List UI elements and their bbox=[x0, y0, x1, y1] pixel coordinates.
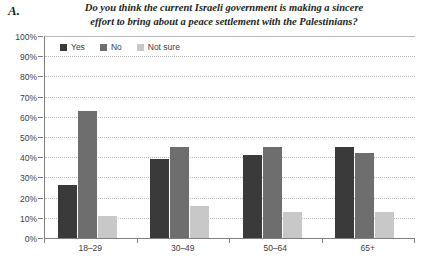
legend-label: Not sure bbox=[148, 42, 180, 52]
gridline bbox=[45, 137, 415, 138]
legend-label: Yes bbox=[71, 42, 85, 52]
y-axis-tick-label: 30% bbox=[0, 173, 37, 183]
chart-title-line-2: effort to bring about a peace settlement… bbox=[74, 15, 374, 29]
y-axis-tick-mark bbox=[38, 56, 43, 57]
x-axis-tick-label: 65+ bbox=[322, 243, 415, 253]
legend-swatch-icon bbox=[137, 44, 144, 51]
legend-swatch-icon bbox=[60, 44, 67, 51]
gridline bbox=[45, 36, 415, 37]
bar-5064-not-sure bbox=[283, 212, 302, 238]
y-axis-tick-mark bbox=[38, 177, 43, 178]
y-axis-tick-label: 20% bbox=[0, 193, 37, 203]
y-axis-tick-mark bbox=[38, 117, 43, 118]
y-axis-tick-label: 0% bbox=[0, 234, 37, 244]
y-axis-tick-label: 50% bbox=[0, 133, 37, 143]
x-axis-tick-label: 18–29 bbox=[44, 243, 137, 253]
legend-item-no[interactable]: No bbox=[100, 42, 122, 52]
gridline bbox=[45, 76, 415, 77]
y-axis-tick-label: 40% bbox=[0, 153, 37, 163]
panel-label: A. bbox=[8, 3, 20, 19]
y-axis-tick-label: 10% bbox=[0, 213, 37, 223]
chart-figure: A. Do you think the current Israeli gove… bbox=[0, 0, 424, 265]
bar-3049-no bbox=[170, 147, 189, 238]
bar-5064-no bbox=[263, 147, 282, 238]
y-axis-tick-label: 80% bbox=[0, 72, 37, 82]
gridline bbox=[45, 56, 415, 57]
legend-item-yes[interactable]: Yes bbox=[60, 42, 85, 52]
y-axis-tick-mark bbox=[38, 238, 43, 239]
y-axis-tick-mark bbox=[38, 97, 43, 98]
bar-1829-yes bbox=[58, 185, 77, 238]
legend-item-not-sure[interactable]: Not sure bbox=[137, 42, 180, 52]
plot-area bbox=[44, 36, 415, 239]
y-axis-tick-label: 100% bbox=[0, 32, 37, 42]
legend-label: No bbox=[111, 42, 122, 52]
bar-65+-no bbox=[355, 153, 374, 238]
bar-3049-not-sure bbox=[190, 206, 209, 238]
y-axis-tick-mark bbox=[38, 157, 43, 158]
bar-65+-not-sure bbox=[375, 212, 394, 238]
x-axis-tick-label: 50–64 bbox=[229, 243, 322, 253]
legend-swatch-icon bbox=[100, 44, 107, 51]
y-axis-tick-label: 60% bbox=[0, 112, 37, 122]
chart-title: Do you think the current Israeli governm… bbox=[74, 1, 374, 28]
y-axis-tick-label: 90% bbox=[0, 52, 37, 62]
y-axis-tick-label: 70% bbox=[0, 92, 37, 102]
y-axis-tick-mark bbox=[38, 218, 43, 219]
y-axis-tick-mark bbox=[38, 76, 43, 77]
bar-1829-not-sure bbox=[98, 216, 117, 238]
y-axis-tick-mark bbox=[38, 198, 43, 199]
chart-title-line-1: Do you think the current Israeli governm… bbox=[74, 1, 374, 15]
bar-65+-yes bbox=[335, 147, 354, 238]
y-axis-tick-mark bbox=[38, 36, 43, 37]
gridline bbox=[45, 97, 415, 98]
bar-1829-no bbox=[78, 111, 97, 238]
y-axis-tick-mark bbox=[38, 137, 43, 138]
chart-legend: YesNoNot sure bbox=[60, 42, 195, 52]
bar-5064-yes bbox=[243, 155, 262, 238]
x-axis-tick-label: 30–49 bbox=[137, 243, 230, 253]
gridline bbox=[45, 117, 415, 118]
bar-3049-yes bbox=[150, 159, 169, 238]
